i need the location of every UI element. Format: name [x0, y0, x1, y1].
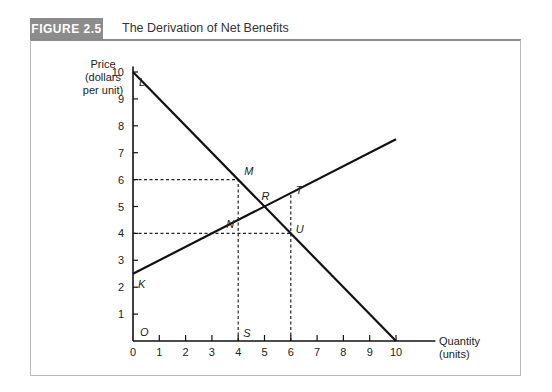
x-tick-label: 0 — [130, 346, 136, 358]
y-tick-label: 5 — [118, 201, 124, 213]
point-label: O — [140, 326, 149, 338]
x-axis-title: Quantity — [439, 335, 480, 347]
x-tick-label: 4 — [235, 346, 241, 358]
point-label: K — [138, 278, 146, 290]
x-tick-label: 3 — [209, 346, 215, 358]
y-axis-title: per unit) — [83, 84, 123, 96]
x-tick-label: 8 — [340, 346, 346, 358]
x-tick-label: 7 — [314, 346, 320, 358]
x-tick-label: 10 — [390, 346, 402, 358]
point-label: M — [244, 165, 254, 177]
x-tick-label: 9 — [367, 346, 373, 358]
x-tick-label: 2 — [183, 346, 189, 358]
point-label: U — [296, 223, 304, 235]
point-label: L — [139, 76, 145, 88]
point-label: N — [226, 218, 234, 230]
series-line — [133, 139, 396, 274]
x-tick-label: 6 — [288, 346, 294, 358]
y-tick-label: 1 — [118, 308, 124, 320]
y-tick-label: 8 — [118, 120, 124, 132]
y-tick-label: 3 — [118, 254, 124, 266]
point-label: R — [262, 190, 270, 202]
y-tick-label: 2 — [118, 281, 124, 293]
y-tick-label: 4 — [118, 227, 124, 239]
y-axis-title: Price — [90, 58, 115, 70]
y-axis-title: (dollars — [85, 71, 122, 83]
y-tick-label: 7 — [118, 147, 124, 159]
point-label: S — [243, 327, 251, 339]
x-tick-label: 1 — [156, 346, 162, 358]
x-axis-title: (units) — [439, 348, 470, 360]
x-tick-label: 5 — [261, 346, 267, 358]
y-tick-label: 6 — [118, 174, 124, 186]
chart: 12345678910012345678910LKMNRTUSOPrice(do… — [0, 0, 552, 392]
